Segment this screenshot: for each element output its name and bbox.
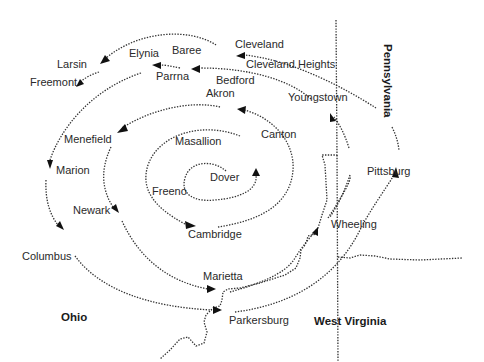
arrow-canton (252, 168, 260, 176)
city-larsin: Larsin (57, 58, 87, 70)
route-cambridge-akron (218, 109, 293, 227)
city-youngstown: Youngstown (288, 91, 348, 103)
state-label-ohio: Ohio (61, 311, 87, 323)
arrow-newark (111, 204, 119, 213)
route-wheeling-youngstown (328, 176, 350, 218)
city-menefield: Menefield (64, 133, 112, 145)
city-columbus: Columbus (22, 250, 72, 262)
city-elynia: Elynia (129, 47, 160, 59)
city-parrna: Parrna (156, 70, 190, 82)
city-newark: Newark (73, 204, 111, 216)
city-wheeling: Wheeling (331, 218, 377, 230)
city-masallion: Masallion (175, 135, 221, 147)
city-canton: Canton (261, 128, 296, 140)
arrow-marietta (207, 285, 216, 293)
city-cleveland: Cleveland (235, 38, 284, 50)
city-freemont: Freemont (30, 76, 77, 88)
city-parkersburg: Parkersburg (229, 314, 289, 326)
arrow-marion-down (56, 221, 64, 230)
arrow-cleveland (236, 52, 245, 59)
city-dover: Dover (210, 171, 240, 183)
pennsylvania-wv-border-horizontal (338, 255, 462, 260)
city-baree: Baree (172, 44, 201, 56)
arrow-parkersburg (213, 306, 222, 314)
spiral-route-map: Cleveland Cleveland Heights Baree Elynia… (0, 0, 484, 362)
city-marietta: Marietta (203, 270, 244, 282)
arrow-marion (47, 160, 53, 169)
arrow-youngstown (330, 113, 336, 122)
route-menefield-newark (104, 147, 113, 207)
route-larsin-freemont (80, 72, 99, 82)
city-pittsburg: Pittsburg (367, 165, 410, 177)
city-freeno: Freeno (152, 185, 187, 197)
route-parrna-elynia (160, 65, 180, 68)
pennsylvania-wv-border-vertical (337, 155, 338, 362)
route-marion-down (46, 180, 58, 225)
arrow-menefield (117, 124, 128, 133)
arrow-parrna (191, 65, 200, 73)
city-bedford: Bedford (216, 74, 255, 86)
state-label-west-virginia: West Virginia (314, 315, 387, 327)
ohio-pennsylvania-border (307, 20, 337, 240)
route-parkersburg-pittsburg (235, 175, 394, 312)
arrow-larsin (100, 55, 110, 64)
city-marion: Marion (56, 164, 90, 176)
city-akron: Akron (206, 87, 235, 99)
route-columbus-parkersburg (75, 256, 212, 310)
city-cleveland-heights: Cleveland Heights (246, 58, 336, 70)
route-pittsburg-upper (392, 127, 399, 150)
arrow-elynia (152, 62, 161, 69)
route-akron-menefield (122, 105, 220, 128)
state-borders (160, 20, 462, 362)
city-cambridge: Cambridge (188, 228, 242, 240)
route-marietta-wheeling (230, 230, 316, 292)
arrow-akron (237, 106, 246, 114)
state-label-pennsylvania: Pennsylvania (382, 44, 394, 118)
